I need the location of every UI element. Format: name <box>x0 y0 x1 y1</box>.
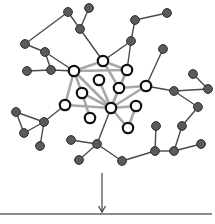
periphery-node <box>64 8 73 17</box>
periphery-node <box>118 157 127 166</box>
core-edge <box>74 70 127 71</box>
core-node <box>85 113 95 123</box>
core-node <box>106 103 116 113</box>
periphery-node <box>93 140 102 149</box>
periphery-edge <box>122 151 155 161</box>
core-node <box>114 83 124 93</box>
periphery-node <box>127 37 136 46</box>
periphery-node <box>178 122 187 131</box>
periphery-node <box>194 103 203 112</box>
periphery-edge <box>25 12 68 44</box>
periphery-node <box>189 70 198 79</box>
core-node <box>69 66 79 76</box>
periphery-edge <box>135 13 167 20</box>
periphery-node <box>36 142 45 151</box>
core-node <box>94 75 104 85</box>
periphery-node <box>151 147 160 156</box>
periphery-node <box>20 129 29 138</box>
periphery-node <box>170 87 179 96</box>
periphery-node <box>197 140 206 149</box>
edges-layer <box>16 8 208 161</box>
network-diagram <box>0 0 215 224</box>
periphery-node <box>23 67 32 76</box>
periphery-node <box>204 85 213 94</box>
core-node <box>98 56 108 66</box>
periphery-edge <box>174 89 208 91</box>
periphery-node <box>12 108 21 117</box>
core-node <box>141 81 151 91</box>
core-node <box>60 100 70 110</box>
periphery-node <box>41 48 50 57</box>
periphery-node <box>75 156 84 165</box>
nodes-layer <box>12 4 213 166</box>
periphery-node <box>152 122 161 131</box>
periphery-node <box>170 147 179 156</box>
periphery-node <box>67 136 76 145</box>
periphery-node <box>85 4 94 13</box>
periphery-node <box>40 118 49 127</box>
periphery-node <box>76 25 85 34</box>
periphery-node <box>47 66 56 75</box>
periphery-node <box>131 16 140 25</box>
periphery-node <box>21 40 30 49</box>
periphery-node <box>163 9 172 18</box>
core-node <box>122 65 132 75</box>
periphery-node <box>159 45 168 54</box>
core-node <box>123 123 133 133</box>
core-node <box>77 88 87 98</box>
core-node <box>131 101 141 111</box>
